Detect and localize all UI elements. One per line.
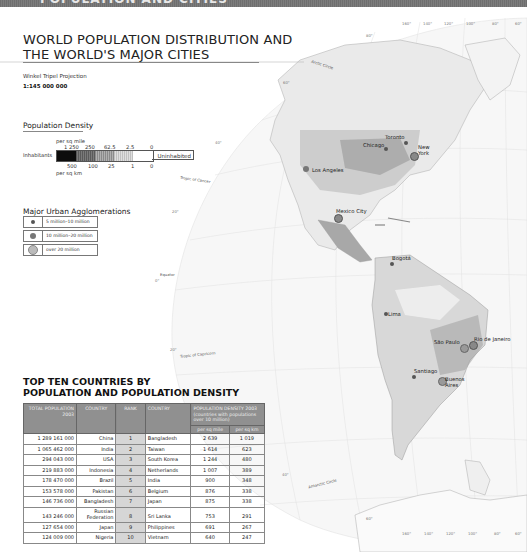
cell-per-sq-km: 291 xyxy=(229,507,264,522)
per-sq-km-label: per sq km xyxy=(56,170,82,176)
cell-population: 219 883 000 xyxy=(24,465,77,476)
top-ten-title: TOP TEN COUNTRIES BY POPULATION AND POPU… xyxy=(23,376,239,398)
urban-legend-label: 5 million–10 million xyxy=(43,217,90,227)
cell-rank: 3 xyxy=(116,455,145,466)
cell-per-sq-km: 623 xyxy=(229,444,264,455)
longitude-label: 60° xyxy=(515,21,522,26)
table-row: 294 043 000 USA 3 South Korea 1 244 480 xyxy=(24,455,265,466)
cell-per-sq-km: 1 019 xyxy=(229,434,264,445)
city-label-sao-paulo: São Paulo xyxy=(434,339,460,345)
city-marker-chicago-icon xyxy=(384,147,388,151)
longitude-label: 100° xyxy=(466,21,475,26)
cell-per-sq-mile: 875 xyxy=(191,497,229,508)
cell-per-sq-km: 389 xyxy=(229,465,264,476)
longitude-label: 160° xyxy=(402,531,411,536)
population-density-title: Population Density xyxy=(23,121,93,130)
city-marker-los-angeles-icon xyxy=(303,166,309,172)
cell-rank: 7 xyxy=(116,497,145,508)
longitude-label: 60° xyxy=(515,531,522,536)
longitude-label: 80° xyxy=(494,531,501,536)
header-rank: RANK xyxy=(116,404,145,434)
section-title: POPULATION AND CITIES xyxy=(40,0,228,6)
map-title: WORLD POPULATION DISTRIBUTION AND THE WO… xyxy=(23,32,292,62)
table-row: 153 578 000 Pakistan 6 Belgium 876 338 xyxy=(24,486,265,497)
cell-per-sq-mile: 691 xyxy=(191,522,229,533)
cell-per-sq-km: 480 xyxy=(229,455,264,466)
cell-rank: 9 xyxy=(116,522,145,533)
longitude-label: 140° xyxy=(423,21,432,26)
top-ten-table: TOTAL POPULATION 2003 COUNTRY RANK COUNT… xyxy=(23,403,265,544)
table-row: 143 246 000 Russian Federation 8 Sri Lan… xyxy=(24,507,265,522)
cell-rank: 1 xyxy=(116,434,145,445)
inhabitants-label: Inhabitants xyxy=(23,152,52,158)
density-swatch-4 xyxy=(133,151,153,161)
cell-density-country: Sri Lanka xyxy=(145,507,191,522)
cell-per-sq-km: 338 xyxy=(229,497,264,508)
cell-density-country: Japan xyxy=(145,497,191,508)
cell-country: Brazil xyxy=(77,476,116,487)
density-swatch-0 xyxy=(57,151,76,161)
latitude-degree-label: 40° xyxy=(282,472,289,477)
density-bottom-value-0: 500 xyxy=(67,163,77,169)
cell-country: Indonesia xyxy=(77,465,116,476)
cell-density-country: Belgium xyxy=(145,486,191,497)
cell-density-country: Bangladesh xyxy=(145,434,191,445)
cell-rank: 4 xyxy=(116,465,145,476)
cell-rank: 5 xyxy=(116,476,145,487)
table-row: 178 470 000 Brazil 5 India 900 348 xyxy=(24,476,265,487)
cell-population: 1 289 161 000 xyxy=(24,434,77,445)
cell-per-sq-mile: 900 xyxy=(191,476,229,487)
longitude-label: 160° xyxy=(402,21,411,26)
city-label-bogota: Bogotá xyxy=(392,255,411,261)
density-swatch-3 xyxy=(114,151,133,161)
cell-population: 124 009 000 xyxy=(24,533,77,544)
urban-legend-row: 10 million–20 million xyxy=(23,230,98,242)
density-bottom-value-3: 1 xyxy=(131,163,134,169)
cell-rank: 8 xyxy=(116,507,145,522)
urban-legend-label: 10 million–20 million xyxy=(43,231,93,241)
urban-legend-row: 5 million–10 million xyxy=(23,216,98,228)
cell-per-sq-mile: 2 639 xyxy=(191,434,229,445)
table-row: 146 736 000 Bangladesh 7 Japan 875 338 xyxy=(24,497,265,508)
latitude-degree-label: 40° xyxy=(215,140,222,145)
cell-country: China xyxy=(77,434,116,445)
header-country: COUNTRY xyxy=(77,404,116,434)
cell-per-sq-mile: 1 614 xyxy=(191,444,229,455)
cell-population: 1 065 462 000 xyxy=(24,444,77,455)
cell-country: India xyxy=(77,444,116,455)
cell-population: 153 578 000 xyxy=(24,486,77,497)
city-marker-mexico-city-icon xyxy=(334,214,343,223)
city-dot-medium-icon xyxy=(30,233,36,239)
city-dot-small-icon xyxy=(31,220,35,224)
table-row: 1 065 462 000 India 2 Taiwan 1 614 623 xyxy=(24,444,265,455)
cell-per-sq-km: 348 xyxy=(229,476,264,487)
density-bottom-value-2: 25 xyxy=(108,163,115,169)
city-label-rio-de-janeiro: Rio de Janeiro xyxy=(474,336,511,342)
urban-legend-label: over 20 million xyxy=(43,245,80,255)
projection-label: Winkel Tripel Projection xyxy=(23,73,87,79)
cell-population: 143 246 000 xyxy=(24,507,77,522)
city-marker-bogota-icon xyxy=(390,262,394,266)
table-row: 219 883 000 Indonesia 4 Netherlands 1 00… xyxy=(24,465,265,476)
header-population-density: POPULATION DENSITY 2003 (countries with … xyxy=(191,404,265,426)
city-marker-sao-paulo-icon xyxy=(460,344,469,353)
cell-density-country: India xyxy=(145,476,191,487)
density-swatch-2 xyxy=(95,151,114,161)
city-marker-santiago-icon xyxy=(412,375,416,379)
city-label-chicago: Chicago xyxy=(363,142,384,148)
table-row: 124 009 000 Nigeria 10 Vietnam 640 247 xyxy=(24,533,265,544)
latitude-degree-label: 20° xyxy=(172,209,179,214)
latitude-degree-label: 80° xyxy=(366,33,373,38)
longitude-label: 120° xyxy=(446,531,455,536)
cell-per-sq-mile: 753 xyxy=(191,507,229,522)
header-total-population: TOTAL POPULATION 2003 xyxy=(24,404,77,434)
header-country-density: COUNTRY xyxy=(145,404,191,434)
cell-density-country: Taiwan xyxy=(145,444,191,455)
longitude-label: 100° xyxy=(468,531,477,536)
latitude-degree-label: 60° xyxy=(366,516,373,521)
city-dot-large-icon xyxy=(28,245,38,255)
scale-label: 1:145 000 000 xyxy=(23,83,67,89)
city-label-toronto: Toronto xyxy=(385,134,405,140)
cell-rank: 2 xyxy=(116,444,145,455)
city-label-mexico-city: Mexico City xyxy=(336,208,367,214)
